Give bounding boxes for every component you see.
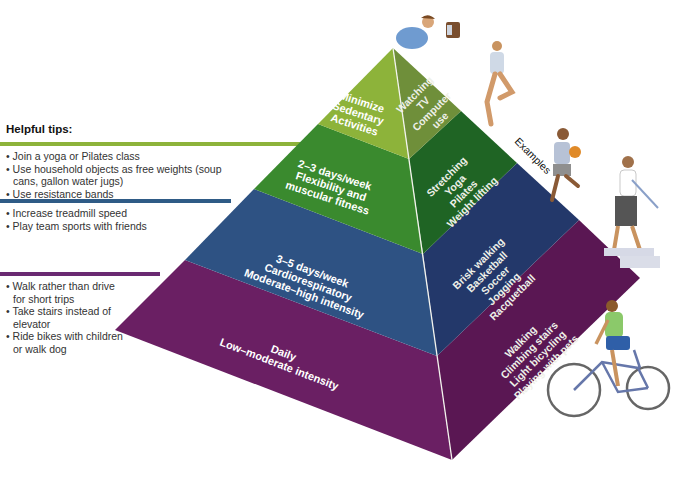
activity-pyramid: Minimize Sedentary Activities 2–3 days/w… (0, 0, 683, 480)
person-basketball-illustration (552, 128, 581, 200)
person-watching-tv-illustration (396, 15, 460, 49)
person-climbing-stairs-illustration (604, 156, 660, 268)
person-yoga-illustration (487, 41, 512, 124)
